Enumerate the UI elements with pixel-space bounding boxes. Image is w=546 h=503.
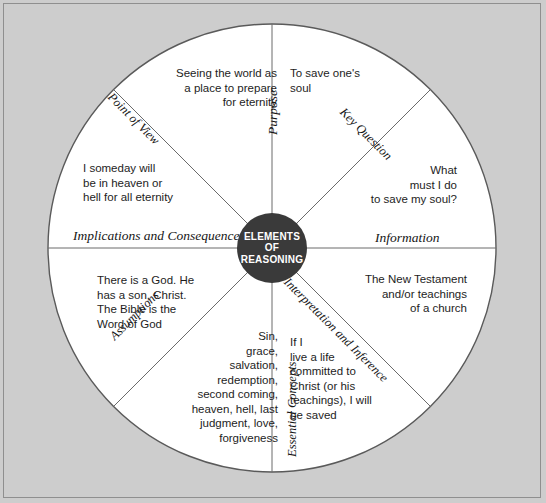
sector-label-purpose: Purpose (265, 90, 281, 135)
sector-text-implications-and-consequences: I someday willbe in heaven orhell for al… (83, 161, 253, 205)
hub-line-2: OF (265, 242, 279, 254)
hub-line-3: REASONING (241, 254, 303, 266)
sector-label-essential-concepts: Essential Concepts (285, 362, 300, 457)
hub-elements-of-reasoning: ELEMENTS OF REASONING (237, 213, 307, 283)
sector-label-information: Information (375, 230, 440, 246)
sector-text-point-of-view: Seeing the world asa place to preparefor… (117, 66, 277, 110)
diagram-page: ELEMENTS OF REASONING Seeing the world a… (0, 0, 546, 503)
sector-text-key-question: Whatmust I doto save my soul? (282, 163, 457, 207)
sector-label-implications-and-consequences: Implications and Consequences (73, 228, 245, 244)
hub-line-1: ELEMENTS (244, 231, 300, 243)
sector-text-purpose: To save one'ssoul (290, 66, 440, 95)
sector-text-essential-concepts: Sin,grace,salvation,redemption,second co… (123, 329, 278, 445)
elements-of-reasoning-wheel: ELEMENTS OF REASONING Seeing the world a… (47, 23, 497, 473)
